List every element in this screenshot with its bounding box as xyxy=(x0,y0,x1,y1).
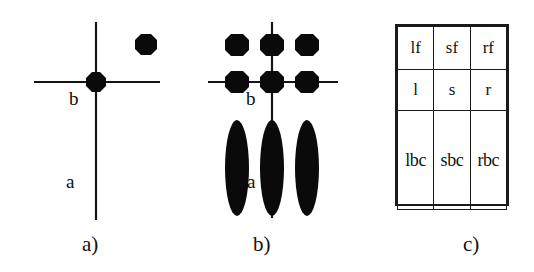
table-cell-text: lf xyxy=(410,38,420,58)
label-table-grid: lf sf rf l s xyxy=(397,26,507,210)
panel-c: lf sf rf l s xyxy=(355,0,534,272)
panel-b-top-left-blob xyxy=(225,34,249,56)
table-cell-text: sf xyxy=(446,38,458,58)
table-cell-s: s xyxy=(434,70,470,111)
panel-b-top-center-blob xyxy=(260,34,284,56)
table-cell-sf: sf xyxy=(434,27,470,70)
table-cell-text: rbc xyxy=(477,150,499,171)
table-cell-rf: rf xyxy=(470,27,506,70)
panel-a-branch-label: b xyxy=(69,89,79,108)
table-cell-text: r xyxy=(485,80,491,100)
table-cell-sbc: sbc xyxy=(434,111,470,210)
panel-b: b a b) xyxy=(180,0,355,272)
label-table: lf sf rf l s xyxy=(395,24,509,206)
table-cell-rbc: rbc xyxy=(470,111,506,210)
panel-a: b a a) xyxy=(0,0,180,272)
figure-root: b a a) b a b) xyxy=(0,0,534,272)
panel-b-axis-label: a xyxy=(247,172,255,191)
panel-b-caption: b) xyxy=(253,232,271,257)
panel-b-mid-center-blob xyxy=(260,71,284,93)
table-row: l s r xyxy=(398,70,507,111)
panel-a-upper-right-blob xyxy=(135,34,157,55)
table-cell-l: l xyxy=(398,70,434,111)
panel-c-caption: c) xyxy=(463,232,479,257)
table-cell-text: lbc xyxy=(405,150,426,171)
panel-b-right-ellipse xyxy=(295,120,319,216)
panel-a-intersection-blob xyxy=(86,72,106,92)
table-cell-r: r xyxy=(470,70,506,111)
table-cell-text: sbc xyxy=(441,150,464,171)
panel-a-caption: a) xyxy=(82,232,98,257)
table-cell-lf: lf xyxy=(398,27,434,70)
panel-b-left-ellipse xyxy=(225,120,249,216)
panel-b-center-ellipse xyxy=(260,120,284,216)
table-cell-lbc: lbc xyxy=(398,111,434,210)
table-row: lf sf rf xyxy=(398,27,507,70)
panel-b-mid-right-blob xyxy=(295,71,319,93)
panel-b-top-right-blob xyxy=(295,34,319,56)
table-cell-text: s xyxy=(449,80,456,100)
panel-b-branch-label: b xyxy=(246,89,256,108)
table-row: lbc sbc rbc xyxy=(398,111,507,210)
panel-a-axis-label: a xyxy=(66,172,74,191)
table-cell-text: rf xyxy=(483,38,494,58)
table-cell-text: l xyxy=(413,80,418,100)
